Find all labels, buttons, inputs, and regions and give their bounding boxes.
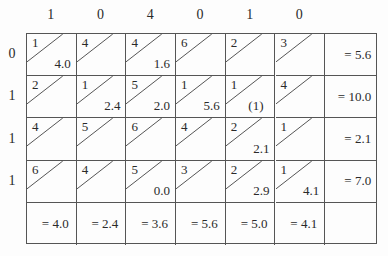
cell-cost: 3 — [181, 162, 188, 177]
cell-cost: 4 — [131, 35, 138, 50]
cell-allocation: 2.9 — [253, 183, 269, 198]
table-cell: 6 — [27, 161, 77, 203]
column-sum-cell: = 2.4 — [77, 203, 127, 245]
cell-allocation: (1) — [248, 98, 263, 113]
table-cell: 4 — [27, 118, 77, 160]
cell-cost: 1 — [181, 77, 188, 92]
row-sum: = 10.0 — [338, 76, 371, 117]
column-sum-cell: = 4.0 — [27, 203, 77, 245]
cell-cost: 2 — [32, 77, 39, 92]
column-header: 0 — [76, 6, 126, 24]
cell-cost: 2 — [231, 35, 238, 50]
cell-allocation: 4.1 — [303, 183, 319, 198]
row-label: 0 — [4, 45, 20, 63]
column-header: 0 — [175, 6, 225, 24]
cell-allocation: 0.0 — [154, 183, 170, 198]
cell-cost: 1 — [82, 77, 89, 92]
table-cell: 22.1 — [226, 118, 276, 160]
table-cell: 15.6 — [176, 76, 226, 118]
table-cell: 6 — [176, 34, 226, 76]
cell-cost: 2 — [231, 119, 238, 134]
column-sum: = 5.0 — [241, 203, 268, 245]
row-sum: = 7.0 — [344, 161, 371, 202]
column-sum: = 4.0 — [42, 203, 69, 245]
cell-cost: 1 — [281, 119, 288, 134]
row-sum-cell: = 5.6 — [325, 34, 377, 76]
table-cell: 14.0 — [27, 34, 77, 76]
cell-cost: 4 — [82, 35, 89, 50]
table-cell: 14.1 — [276, 161, 326, 203]
table-cell: 4 — [176, 118, 226, 160]
cell-cost: 3 — [281, 35, 288, 50]
cell-allocation: 1.6 — [154, 56, 170, 71]
table-cell: 4 — [77, 34, 127, 76]
row-sum: = 5.6 — [344, 34, 371, 75]
empty-corner-cell — [325, 203, 377, 245]
row-label: 1 — [4, 172, 20, 190]
column-sum-cell: = 5.0 — [226, 203, 276, 245]
cell-cost: 6 — [32, 162, 39, 177]
table-cell: 6 — [126, 118, 176, 160]
cell-cost: 4 — [32, 119, 39, 134]
cell-allocation: 2.0 — [154, 98, 170, 113]
transport-table: 14.0441.6623= 5.6212.452.015.61(1)4= 10.… — [26, 33, 377, 244]
row-sum-cell: = 2.1 — [325, 118, 377, 160]
table-cell: 2 — [226, 34, 276, 76]
table-cell: 2 — [27, 76, 77, 118]
table-cell: 4 — [276, 76, 326, 118]
cell-allocation: 5.6 — [204, 98, 220, 113]
cell-cost: 5 — [82, 119, 89, 134]
column-sum-cell: = 3.6 — [126, 203, 176, 245]
table-cell: 3 — [176, 161, 226, 203]
cell-cost: 1 — [231, 77, 238, 92]
table-cell: 22.9 — [226, 161, 276, 203]
row-sum-cell: = 10.0 — [325, 76, 377, 118]
table-cell: 1 — [276, 118, 326, 160]
cell-cost: 4 — [281, 77, 288, 92]
column-sum-cell: = 5.6 — [176, 203, 226, 245]
table-cell: 41.6 — [126, 34, 176, 76]
cell-cost: 2 — [231, 162, 238, 177]
cell-cost: 1 — [32, 35, 39, 50]
column-header: 4 — [125, 6, 175, 24]
row-label: 1 — [4, 130, 20, 148]
row-sum: = 2.1 — [344, 118, 371, 159]
cell-allocation: 2.4 — [104, 98, 120, 113]
table-cell: 12.4 — [77, 76, 127, 118]
column-sum: = 2.4 — [92, 203, 119, 245]
column-sum: = 4.1 — [290, 203, 317, 245]
table-cell: 50.0 — [126, 161, 176, 203]
cell-cost: 5 — [131, 77, 138, 92]
column-sum: = 5.6 — [191, 203, 218, 245]
cell-cost: 5 — [131, 162, 138, 177]
column-header: 1 — [26, 6, 76, 24]
table-cell: 5 — [77, 118, 127, 160]
cell-cost: 4 — [82, 162, 89, 177]
column-header: 0 — [274, 6, 324, 24]
table-cell: 1(1) — [226, 76, 276, 118]
cell-cost: 6 — [131, 119, 138, 134]
table-cell: 4 — [77, 161, 127, 203]
table-cell: 52.0 — [126, 76, 176, 118]
column-sum: = 3.6 — [141, 203, 168, 245]
cell-cost: 6 — [181, 35, 188, 50]
cell-allocation: 2.1 — [253, 141, 269, 156]
cell-allocation: 4.0 — [54, 56, 70, 71]
row-label: 1 — [4, 87, 20, 105]
cell-cost: 1 — [281, 162, 288, 177]
cell-cost: 4 — [181, 119, 188, 134]
column-sum-cell: = 4.1 — [276, 203, 326, 245]
column-header: 1 — [225, 6, 275, 24]
row-sum-cell: = 7.0 — [325, 161, 377, 203]
table-cell: 3 — [276, 34, 326, 76]
